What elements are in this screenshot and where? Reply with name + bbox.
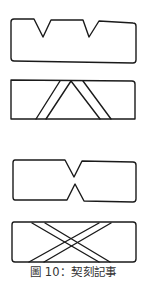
figure-caption: 圖 10：契刻記事 (0, 264, 146, 280)
double-v-notch-tally (11, 19, 136, 63)
tally-marks-illustration (0, 0, 146, 289)
crossed-x-tally (12, 222, 136, 262)
hourglass-notch-tally (13, 160, 136, 202)
parallel-inverted-v-tally (11, 80, 135, 119)
